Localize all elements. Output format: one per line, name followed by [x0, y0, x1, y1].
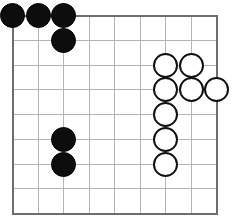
black-stone-c4[interactable]: [51, 127, 76, 152]
black-stone-a9[interactable]: [0, 3, 25, 28]
grid-line-horizontal-6: [13, 164, 217, 165]
white-stone-j6[interactable]: [204, 77, 229, 102]
board-border-right: [216, 15, 218, 215]
board-border-left: [12, 15, 14, 215]
white-stone-g5[interactable]: [153, 102, 178, 127]
black-stone-c3[interactable]: [51, 152, 76, 177]
grid-line-horizontal-4: [13, 114, 217, 115]
grid-line-horizontal-7: [13, 188, 217, 189]
board-border-bottom: [12, 213, 218, 215]
white-stone-g4[interactable]: [153, 127, 178, 152]
grid-line-horizontal-1: [13, 40, 217, 41]
black-stone-c8[interactable]: [51, 28, 76, 53]
white-stone-h7[interactable]: [179, 53, 204, 78]
goban-grid[interactable]: [0, 0, 234, 224]
grid-line-horizontal-5: [13, 139, 217, 140]
white-stone-h6[interactable]: [179, 77, 204, 102]
black-stone-b9[interactable]: [26, 3, 51, 28]
go-board-figure: [0, 0, 234, 224]
white-stone-g7[interactable]: [153, 53, 178, 78]
white-stone-g3[interactable]: [153, 152, 178, 177]
white-stone-g6[interactable]: [153, 77, 178, 102]
black-stone-c9[interactable]: [51, 3, 76, 28]
